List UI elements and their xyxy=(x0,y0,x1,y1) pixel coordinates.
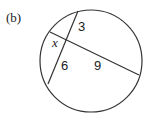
intersecting-chords-diagram: (b) x 3 6 9 xyxy=(0,0,148,116)
segment-label-x: x xyxy=(51,35,58,50)
segment-label-6: 6 xyxy=(61,58,68,73)
circle xyxy=(40,10,142,112)
segment-label-9: 9 xyxy=(94,58,101,73)
part-label: (b) xyxy=(6,10,21,25)
segment-label-3: 3 xyxy=(78,19,85,34)
